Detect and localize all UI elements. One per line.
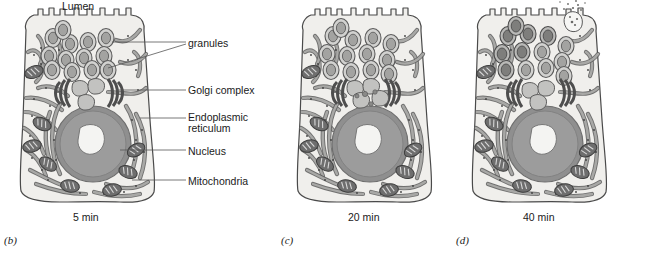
panel-c-time: 20 min — [348, 211, 380, 223]
callout-golgi-complex: Golgi complex — [188, 85, 255, 97]
lumen-label: Lumen — [62, 0, 94, 12]
callout-reticulum: reticulum — [188, 123, 231, 135]
panel-letter-c: (c) — [281, 234, 293, 246]
panel-c-cell — [297, 8, 431, 202]
callout-nucleus: Nucleus — [188, 146, 226, 158]
panel-d-cell — [472, 0, 606, 202]
panel-b-cell — [20, 8, 154, 202]
secretory-pathway-figure: Lumen granules Golgi complex Endoplasmic… — [0, 0, 653, 259]
panel-letter-b: (b) — [4, 234, 17, 246]
panel-letter-d: (d) — [456, 234, 469, 246]
callout-mitochondria: Mitochondria — [188, 176, 248, 188]
panel-d-time: 40 min — [523, 211, 555, 223]
callout-granules: granules — [188, 38, 228, 50]
panel-b-time: 5 min — [73, 211, 99, 223]
